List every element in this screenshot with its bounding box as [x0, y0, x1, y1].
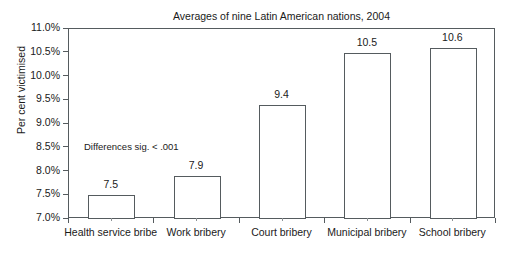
x-axis-center-tick: [452, 218, 453, 221]
y-tick-label: 10.5%: [6, 45, 60, 57]
chart-title: Averages of nine Latin American nations,…: [68, 10, 495, 23]
bar: [430, 48, 477, 219]
chart-figure: Averages of nine Latin American nations,…: [0, 0, 515, 255]
bar-value-label: 9.4: [252, 88, 312, 100]
y-tick-label: 7.0%: [6, 211, 60, 223]
x-axis-center-tick: [111, 218, 112, 221]
bar-value-label: 7.5: [81, 178, 141, 190]
y-tick-label: 9.5%: [6, 92, 60, 104]
y-tick-label: 11.0%: [6, 21, 60, 33]
bar: [88, 195, 135, 219]
y-tick-label: 8.0%: [6, 164, 60, 176]
x-axis-separator-tick: [68, 218, 69, 223]
bar: [344, 53, 391, 219]
y-tick-label: 7.5%: [6, 187, 60, 199]
bar-value-label: 10.5: [337, 36, 397, 48]
x-axis-separator-tick: [324, 218, 325, 223]
bar-value-label: 7.9: [166, 159, 226, 171]
bar-value-label: 10.6: [422, 31, 482, 43]
y-tick-label: 10.0%: [6, 69, 60, 81]
x-axis-center-tick: [282, 218, 283, 221]
y-tick-label: 9.0%: [6, 116, 60, 128]
x-axis-category-label: School bribery: [392, 226, 512, 238]
x-axis-separator-tick: [153, 218, 154, 223]
x-axis-separator-tick: [239, 218, 240, 223]
x-axis-separator-tick: [410, 218, 411, 223]
x-axis-center-tick: [367, 218, 368, 221]
x-axis-center-tick: [196, 218, 197, 221]
bar: [259, 105, 306, 219]
x-axis-separator-tick: [495, 218, 496, 223]
y-tick-label: 8.5%: [6, 140, 60, 152]
significance-annotation: Differences sig. < .001: [84, 141, 179, 152]
bar: [174, 176, 221, 219]
